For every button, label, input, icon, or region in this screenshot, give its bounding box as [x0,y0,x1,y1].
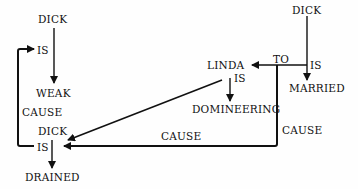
link-is-right: IS [310,60,322,71]
node-domineering: DOMINEERING [192,104,280,115]
node-dick-right: DICK [292,5,321,16]
node-drained: DRAINED [25,172,80,183]
link-is-linda: IS [234,73,246,84]
node-married: MARRIED [289,83,345,94]
node-dick-top: DICK [38,14,67,25]
link-cause-bottom: CAUSE [161,131,201,142]
link-cause-right: CAUSE [282,125,322,136]
link-cause-left: CAUSE [22,107,62,118]
node-dick-middle: DICK [38,126,67,137]
node-weak: WEAK [36,88,71,99]
node-linda: LINDA [207,60,244,71]
link-is-bottom: IS [37,142,49,153]
link-to: TO [273,54,289,65]
cd-diagram: DICK IS WEAK CAUSE DICK IS DRAINED LINDA… [0,0,358,189]
arrow-cause-loop-left [18,49,34,146]
link-is-top: IS [37,45,49,56]
